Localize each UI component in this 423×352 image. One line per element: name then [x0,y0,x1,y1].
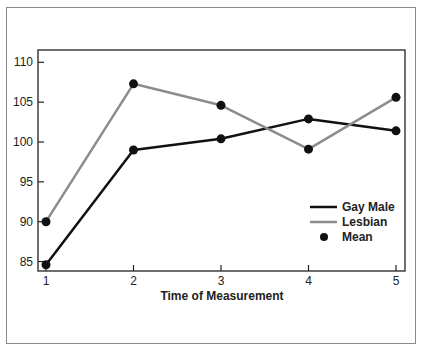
legend-mean-marker-icon [320,233,328,241]
y-tick-label: 110 [14,55,33,69]
data-point [304,145,313,154]
legend: Gay Male Lesbian Mean [310,200,395,244]
data-point [129,79,138,88]
data-point [392,126,401,135]
x-tick-label: 2 [130,274,137,288]
legend-mean-label: Mean [342,230,373,244]
data-point [129,145,138,154]
y-tick-label: 95 [20,175,34,189]
legend-lesbian-label: Lesbian [342,215,387,229]
y-tick-label: 105 [13,95,33,109]
y-tick-label: 100 [13,135,33,149]
data-point [304,114,313,123]
data-point [42,260,51,269]
x-axis-label: Time of Measurement [160,289,283,303]
y-tick-label: 85 [20,255,34,269]
data-point [217,101,226,110]
x-tick-label: 5 [393,274,400,288]
x-tick-label: 4 [305,274,312,288]
x-tick-label: 3 [218,274,225,288]
y-tick-label: 90 [20,215,34,229]
legend-gay-male-label: Gay Male [342,200,395,214]
y-axis: 859095100105110 [13,55,44,268]
line-chart: 859095100105110 12345 Time of Measuremen… [0,0,423,352]
data-point [392,93,401,102]
x-tick-label: 1 [43,274,50,288]
data-point [42,217,51,226]
data-point [217,134,226,143]
x-axis: 12345 [43,265,400,288]
